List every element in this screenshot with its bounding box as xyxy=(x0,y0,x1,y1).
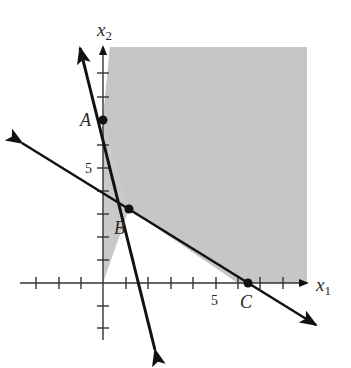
label-B: B xyxy=(114,218,125,238)
point-A xyxy=(99,116,108,125)
label-C: C xyxy=(240,292,253,312)
x-tick-label-5: 5 xyxy=(211,293,218,308)
point-B xyxy=(125,205,134,214)
feasible-region-chart: x2 x1 5 5 A B C xyxy=(0,0,351,368)
x-axis-label: x1 xyxy=(315,274,331,298)
y-tick-label-5: 5 xyxy=(85,161,92,176)
feasible-region-fill xyxy=(103,47,307,283)
y-axis-label: x2 xyxy=(96,19,112,43)
point-C xyxy=(244,279,253,288)
label-A: A xyxy=(79,110,92,130)
